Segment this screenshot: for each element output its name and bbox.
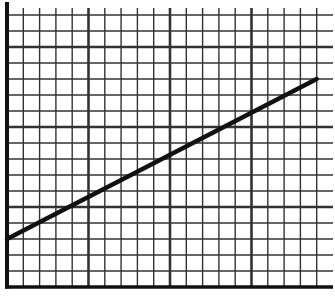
line-chart xyxy=(0,0,335,307)
